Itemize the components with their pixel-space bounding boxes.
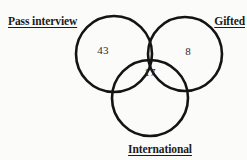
venn-diagram-figure: Pass interview Gifted International 43 8… <box>0 0 247 160</box>
region-count-gifted-only: 8 <box>185 46 191 57</box>
circle-pass-interview <box>76 16 152 92</box>
set-label-gifted: Gifted <box>214 16 245 28</box>
set-label-international: International <box>128 144 192 156</box>
region-count-pass-interview-only: 43 <box>97 45 108 56</box>
region-count-all-three: 17 <box>144 67 155 78</box>
set-label-pass-interview: Pass interview <box>8 16 77 28</box>
